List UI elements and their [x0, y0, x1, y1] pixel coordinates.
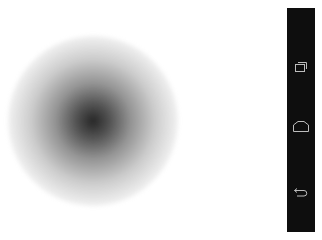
navigation-bar	[287, 8, 315, 232]
app-content	[0, 0, 286, 240]
back-icon	[293, 185, 309, 199]
device-screen	[0, 0, 322, 240]
home-icon	[292, 119, 310, 133]
back-button[interactable]	[287, 178, 315, 206]
blurred-blob-image	[8, 36, 178, 206]
home-button[interactable]	[287, 112, 315, 140]
recent-apps-icon	[293, 58, 309, 74]
recent-apps-button[interactable]	[287, 52, 315, 80]
